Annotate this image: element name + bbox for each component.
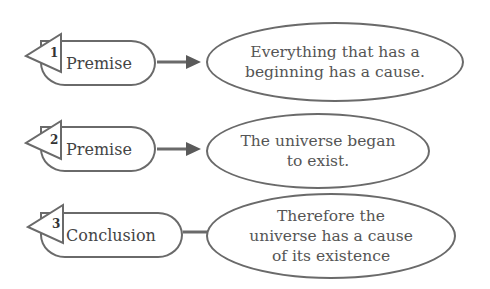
statement-line: universe has a cause (249, 226, 413, 246)
statement-line: Therefore the (249, 206, 413, 226)
arrow-icon (157, 55, 201, 69)
statement-line: Everything that has a (245, 42, 425, 62)
statement-line: of its existence (249, 246, 413, 266)
premise-1-statement: Everything that has a beginning has a ca… (206, 22, 464, 102)
premise-2-statement: The universe began to exist. (206, 113, 430, 189)
statement-line: to exist. (241, 151, 396, 171)
step-2-number: 2 (50, 133, 58, 147)
step-3-number: 3 (52, 217, 60, 231)
step-1-number: 1 (50, 46, 58, 60)
conclusion-statement: Therefore the universe has a cause of it… (206, 193, 456, 279)
statement-line: beginning has a cause. (245, 62, 425, 82)
statement-line: The universe began (241, 131, 396, 151)
arrow-icon (157, 142, 201, 156)
